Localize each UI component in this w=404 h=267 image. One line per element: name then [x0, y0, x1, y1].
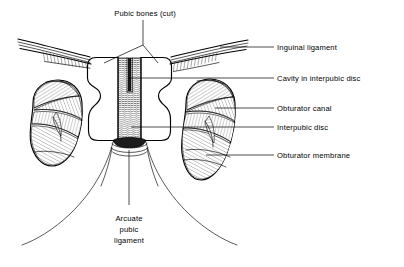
- label-pubic-bones: Pubic bones (cut): [114, 9, 176, 18]
- label-arcuate-line-2: pubic: [120, 225, 139, 234]
- label-interpubic-disc: Interpubic disc: [277, 123, 328, 132]
- label-arcuate-line-3: ligament: [114, 236, 145, 245]
- label-obturator-canal: Obturator canal: [277, 104, 332, 113]
- label-inguinal-ligament: Inguinal ligament: [277, 43, 338, 52]
- pubic-symphysis-diagram: Pubic bones (cut) Inguinal ligament Cavi…: [0, 0, 404, 267]
- label-cavity-in-interpubic-disc: Cavity in interpubic disc: [277, 74, 361, 83]
- anatomical-figure: Pubic bones (cut) Inguinal ligament Cavi…: [0, 0, 404, 267]
- label-obturator-membrane: Obturator membrane: [277, 151, 350, 160]
- label-arcuate-line-1: Arcuate: [115, 214, 142, 223]
